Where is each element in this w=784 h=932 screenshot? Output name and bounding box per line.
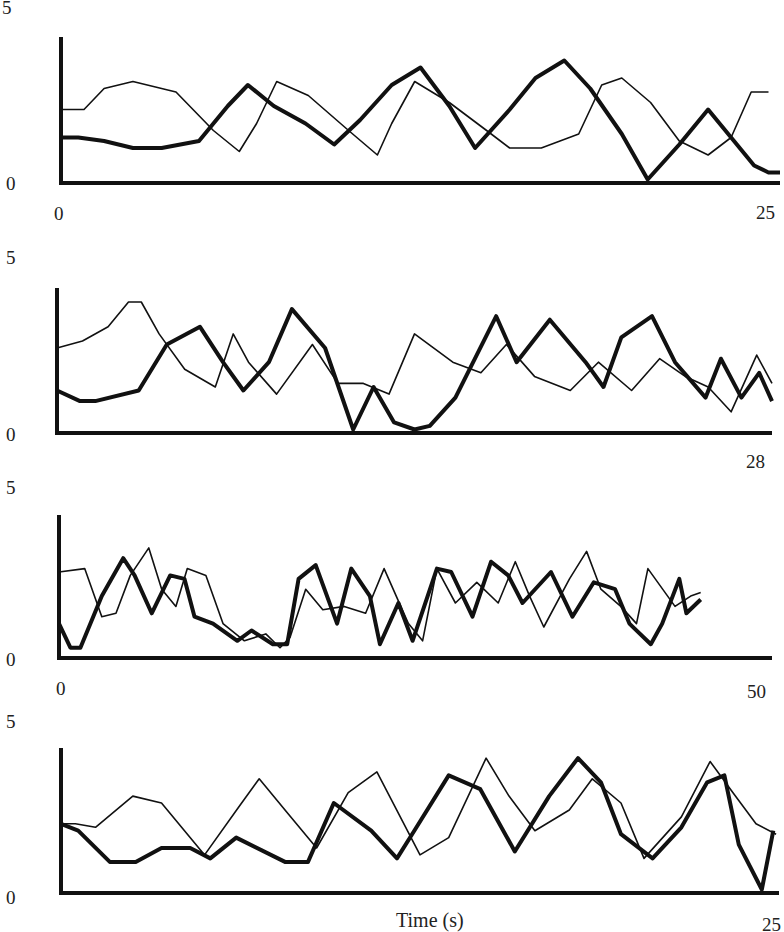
panel-2 xyxy=(57,288,772,433)
panel2-ymin-label: 0 xyxy=(6,425,16,444)
panel1-ymin-label: 0 xyxy=(6,174,16,193)
panel3-ymin-label: 0 xyxy=(6,650,16,669)
axes xyxy=(61,37,780,183)
panel4-xmax-label: 25 xyxy=(762,915,781,932)
panel1-ymax-label: 5 xyxy=(2,0,12,17)
panel1-xmax-label: 25 xyxy=(756,203,775,222)
panel3-xmin-label: 0 xyxy=(56,679,66,698)
series-thick xyxy=(61,61,780,180)
panel1-xmin-label: 0 xyxy=(54,204,64,223)
panel-3 xyxy=(59,515,772,658)
panel3-xmax-label: 50 xyxy=(747,682,766,701)
panel-1 xyxy=(61,37,780,183)
series-thick xyxy=(59,558,701,648)
panel-4 xyxy=(61,748,779,893)
panel3-ymax-label: 5 xyxy=(6,478,16,497)
series-thin xyxy=(61,78,769,155)
series-thick xyxy=(57,309,772,429)
x-axis-title: Time (s) xyxy=(396,910,464,930)
panel4-ymax-label: 5 xyxy=(6,712,16,731)
chart-canvas xyxy=(0,0,784,932)
panel4-ymin-label: 0 xyxy=(6,888,16,907)
panel2-xmax-label: 28 xyxy=(746,452,765,471)
panel2-ymax-label: 5 xyxy=(6,248,16,267)
series-thin xyxy=(59,548,701,648)
series-thin xyxy=(57,302,772,412)
axes xyxy=(57,288,772,433)
series-thick xyxy=(61,758,773,889)
